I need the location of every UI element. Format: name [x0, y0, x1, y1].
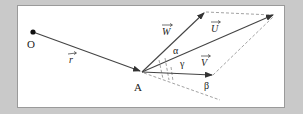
- label-o: O: [27, 38, 35, 50]
- angle-alpha-label: α: [173, 45, 179, 56]
- point-o-dot: [30, 29, 35, 34]
- label-a: A: [134, 81, 142, 93]
- vector-w: [142, 13, 204, 72]
- label-w-group: W: [162, 24, 173, 38]
- label-v-group: V: [201, 55, 211, 69]
- vector-diagram: O A r W U V α γ β: [0, 0, 303, 114]
- vector-u: [142, 15, 273, 72]
- vector-r: [33, 32, 140, 71]
- label-v: V: [201, 57, 209, 68]
- label-r: r: [69, 54, 73, 65]
- vector-v: [142, 72, 212, 75]
- label-u-group: U: [211, 21, 221, 35]
- label-r-group: r: [68, 52, 77, 66]
- label-w: W: [162, 26, 172, 37]
- dashed-w-to-u: [206, 12, 272, 15]
- dashed-perp-3: [171, 67, 173, 81]
- angle-gamma-label: γ: [179, 58, 185, 69]
- dashed-v-to-u: [213, 17, 273, 75]
- angle-beta-label: β: [204, 80, 209, 91]
- label-u: U: [211, 23, 219, 34]
